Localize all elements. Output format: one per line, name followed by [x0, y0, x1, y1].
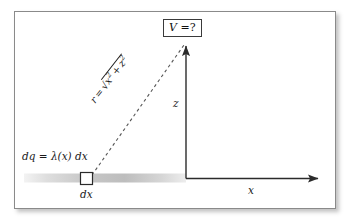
dq-square [81, 173, 93, 185]
potential-value-box: V =? [163, 19, 202, 37]
potential-symbol: V [169, 21, 177, 34]
z-axis-label: z [173, 98, 179, 109]
dx-label: dx [80, 189, 93, 200]
figure-root: V =? dq = λ(x) dx dx z x r = √x2 + z2 [0, 0, 351, 224]
charged-rod [24, 174, 186, 183]
distance-ray [92, 45, 184, 175]
x-axis-label: x [248, 185, 254, 196]
potential-equals: = [177, 21, 190, 34]
charge-element-label: dq = λ(x) dx [22, 151, 88, 162]
potential-unknown: ? [190, 21, 196, 34]
